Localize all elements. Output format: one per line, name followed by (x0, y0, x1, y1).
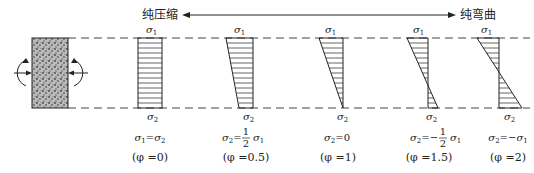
bottom-labels: σ2 σ2 σ2 σ2 σ2 (147, 111, 515, 124)
svg-text:σ1: σ1 (450, 132, 461, 145)
svg-text:2: 2 (243, 138, 249, 149)
svg-text:2: 2 (440, 138, 446, 149)
sigma2-label: σ2 (243, 111, 254, 124)
label-pure-compression: 纯压缩 (142, 7, 178, 22)
phi-label: (φ =2) (490, 151, 526, 164)
relation-4: σ2=− 1 2 σ1 (410, 126, 461, 149)
relation-5: σ2=−σ1 (488, 132, 527, 145)
column-section (14, 38, 88, 108)
sigma2-label: σ2 (504, 111, 515, 124)
stress-diagram-phi-1-5 (407, 38, 438, 108)
top-labels: σ1 σ1 σ1 σ1 σ1 (146, 24, 492, 37)
phi-label: (φ =1) (320, 151, 356, 164)
direction-arrow (182, 12, 456, 18)
stress-distribution-diagram: 纯压缩 纯弯曲 (0, 0, 534, 173)
sigma1-label: σ1 (481, 24, 492, 37)
svg-text:σ1: σ1 (253, 132, 264, 145)
phi-label: (φ =1.5) (406, 151, 453, 164)
relation-1: σ1=σ2 (135, 132, 166, 145)
dashed-guide-lines (68, 38, 530, 108)
svg-text:σ2=: σ2= (222, 132, 242, 145)
phi-label: (φ =0.5) (223, 151, 270, 164)
stress-diagram-phi-0-5 (226, 38, 253, 108)
sigma1-label: σ1 (234, 24, 245, 37)
svg-text:σ2=−: σ2=− (410, 132, 438, 145)
stress-diagram-phi-0 (138, 38, 162, 108)
sigma1-label: σ1 (325, 24, 336, 37)
sigma2-label: σ2 (426, 111, 437, 124)
svg-text:1: 1 (440, 126, 446, 137)
stress-diagram-phi-2 (477, 38, 522, 108)
phi-labels: (φ =0) (φ =0.5) (φ =1) (φ =1.5) (φ =2) (132, 151, 526, 164)
phi-label: (φ =0) (132, 151, 168, 164)
sigma2-label: σ2 (147, 111, 158, 124)
relation-2: σ2= 1 2 σ1 (222, 126, 264, 149)
sigma1-label: σ1 (146, 24, 157, 37)
label-pure-bending: 纯弯曲 (460, 7, 496, 22)
sigma1-label: σ1 (413, 24, 424, 37)
relation-3: σ2=0 (324, 132, 350, 145)
sigma2-label: σ2 (337, 111, 348, 124)
svg-text:1: 1 (243, 126, 249, 137)
stress-diagram-phi-1 (319, 38, 343, 108)
relations: σ1=σ2 σ2= 1 2 σ1 σ2=0 σ2=− 1 2 σ1 σ2=−σ1 (135, 126, 528, 149)
